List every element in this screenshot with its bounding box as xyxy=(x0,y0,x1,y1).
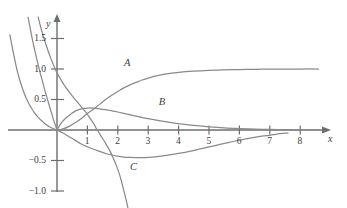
x-axis-label: x xyxy=(328,134,332,144)
y-tick-label-1-5: 1.5 xyxy=(18,34,46,44)
y-tick-label-neg-0-5: −0.5 xyxy=(14,156,46,166)
curve-label-b: B xyxy=(159,97,165,108)
curve-label-c: C xyxy=(130,162,137,173)
x-tick-label-4: 4 xyxy=(176,137,181,147)
curve-c-path xyxy=(57,130,288,158)
x-tick-label-2: 2 xyxy=(115,137,120,147)
x-tick-label-7: 7 xyxy=(267,137,272,147)
x-tick-label-1: 1 xyxy=(85,137,90,147)
y-axis-label: y xyxy=(46,19,50,29)
y-axis-arrowhead xyxy=(54,14,61,22)
curve-left-outer-path xyxy=(10,35,57,130)
curve-b-path xyxy=(57,108,318,130)
y-tick-label-1-0: 1.0 xyxy=(18,65,46,75)
curve-label-a: A xyxy=(124,58,130,69)
y-tick-label-neg-1-0: −1.0 xyxy=(14,187,46,197)
curve-a-path xyxy=(57,69,318,130)
y-tick-label-0-5: 0.5 xyxy=(18,95,46,105)
x-tick-label-6: 6 xyxy=(237,137,242,147)
x-tick-label-8: 8 xyxy=(298,137,303,147)
x-tick-label-5: 5 xyxy=(206,137,211,147)
figure-container: 1.5 1.0 0.5 −0.5 −1.0 1 2 3 4 5 6 7 8 y … xyxy=(0,0,347,208)
curves-group xyxy=(10,17,319,208)
plot-canvas xyxy=(0,0,347,208)
axes-group xyxy=(8,14,331,192)
x-tick-label-3: 3 xyxy=(146,137,151,147)
